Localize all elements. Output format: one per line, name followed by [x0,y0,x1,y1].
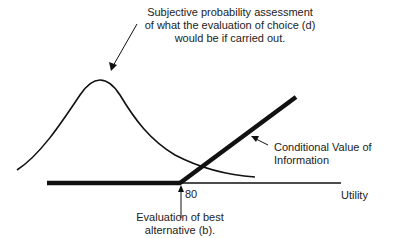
cvi-label: Conditional Value of Information [274,141,419,167]
label-line: would be if carried out. [140,32,320,45]
cvi-line [180,97,296,183]
probability-assessment-label: Subjective probability assessment of wha… [140,6,320,45]
cvi-label-arrow [256,139,268,145]
top-label-arrow [113,24,137,66]
best-alternative-label: Evaluation of best alternative (b). [130,211,230,237]
utility-axis-label: Utility [341,189,368,202]
label-line: Evaluation of best [130,211,230,224]
top-label-arrowhead-icon [109,62,117,71]
label-line: alternative (b). [130,224,230,237]
tick-80-label: 80 [185,188,197,201]
probability-curve [17,80,255,177]
label-line: of what the evaluation of choice (d) [140,19,320,32]
label-line: Subjective probability assessment [140,6,320,19]
bottom-label-arrowhead-icon [178,185,184,192]
cvi-label-arrowhead-icon [251,136,259,142]
